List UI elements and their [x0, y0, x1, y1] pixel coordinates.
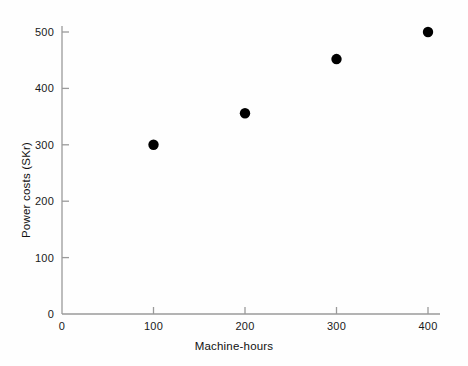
scatter-chart: 0100200300400500 0100200300400 Machine-h…	[0, 0, 468, 366]
y-axis-tick-label: 500	[22, 26, 54, 38]
x-axis-ticks	[154, 307, 429, 314]
plot-canvas	[0, 0, 468, 366]
x-axis-tick-label: 200	[236, 320, 255, 332]
data-point	[423, 27, 433, 37]
y-axis-ticks	[62, 32, 69, 258]
x-axis-title: Machine-hours	[0, 340, 468, 352]
x-axis-tick-label: 0	[59, 320, 65, 332]
data-point	[240, 108, 250, 118]
x-axis-tick-label: 100	[144, 320, 163, 332]
data-point-group	[148, 27, 433, 150]
y-axis-title: Power costs (SKr)	[20, 142, 32, 238]
data-point	[148, 140, 158, 150]
y-axis-tick-label: 100	[22, 252, 54, 264]
x-axis-tick-label: 300	[327, 320, 346, 332]
x-axis-tick-label: 400	[419, 320, 438, 332]
y-axis-tick-label: 400	[22, 82, 54, 94]
data-point	[331, 54, 341, 64]
y-axis-tick-label: 0	[22, 308, 54, 320]
